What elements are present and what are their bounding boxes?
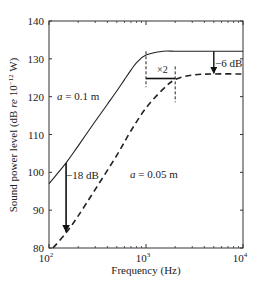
label-a-0-05: a = 0.05 m xyxy=(130,168,178,180)
x-tick-label: 102 xyxy=(39,251,54,264)
annotations xyxy=(66,51,214,231)
label-minus-6-db: −6 dB xyxy=(215,57,242,69)
y-tick-label: 130 xyxy=(28,53,45,65)
label-times-2: ×2 xyxy=(157,64,168,75)
label-a-0-1: a = 0.1 m xyxy=(57,90,100,102)
y-tick-label: 90 xyxy=(33,204,45,216)
data-series xyxy=(49,51,243,248)
y-tick-label: 100 xyxy=(28,166,45,178)
chart-container: 8090100110120130140102103104 Frequency (… xyxy=(0,0,262,288)
x-tick-label: 103 xyxy=(136,251,151,264)
sound-power-chart: 8090100110120130140102103104 Frequency (… xyxy=(0,0,262,288)
y-tick-label: 120 xyxy=(28,91,45,103)
y-tick-label: 110 xyxy=(28,129,45,141)
axis-ticks: 8090100110120130140102103104 xyxy=(28,15,248,264)
y-tick-label: 140 xyxy=(28,15,45,27)
x-axis-label: Frequency (Hz) xyxy=(111,264,181,277)
label-minus-18-db: −18 dB xyxy=(66,169,99,181)
y-axis-label: Sound power level (dB re 10−12 W) xyxy=(7,57,20,212)
x-tick-label: 104 xyxy=(233,251,248,264)
